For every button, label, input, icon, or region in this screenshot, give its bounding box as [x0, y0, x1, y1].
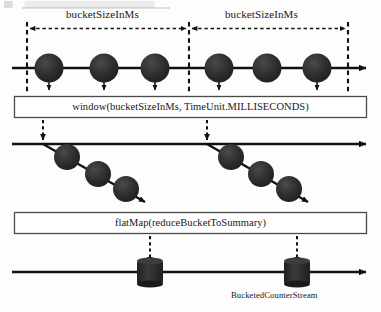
bucket-2-label: bucketSizeInMs [225, 9, 298, 20]
marble-diagram-graphics [0, 0, 381, 312]
source-marble-3 [141, 54, 170, 83]
window-connectors [43, 120, 207, 140]
output-timeline [12, 257, 366, 287]
diagram-canvas: bucketSizeInMs bucketSizeInMs window(buc… [0, 0, 381, 312]
summary-bucket-2 [284, 257, 310, 287]
summary-bucket-1 [137, 257, 163, 287]
windowed-timeline [12, 144, 366, 202]
window-branch-1-marble-2 [85, 161, 111, 187]
window-branch-2-marble-2 [248, 161, 274, 187]
bucket-boundaries [27, 22, 348, 93]
source-marble-1 [35, 54, 64, 83]
window-branch-2-marble-3 [276, 176, 302, 202]
flatmap-connectors [150, 236, 297, 263]
window-branch-2-marble-1 [218, 144, 244, 170]
bucket-1-label: bucketSizeInMs [66, 9, 139, 20]
flatmap-operator-label: flatMap(reduceBucketToSummary) [0, 218, 381, 229]
window-branch-1-marble-3 [113, 176, 139, 202]
window-operator-label: window(bucketSizeInMs, TimeUnit.MILLISEC… [0, 102, 381, 113]
source-marble-6 [303, 54, 332, 83]
source-marble-5 [253, 54, 282, 83]
source-marble-4 [205, 54, 234, 83]
bucketed-counter-stream-label: BucketedCounterStream [231, 291, 318, 300]
source-marble-2 [90, 54, 119, 83]
window-branch-1-marble-1 [54, 144, 80, 170]
